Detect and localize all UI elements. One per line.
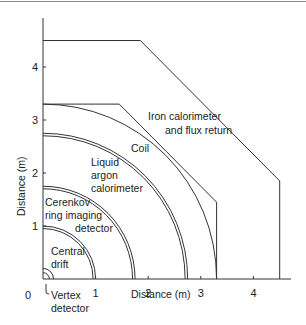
label-cerenkov-3: detector xyxy=(75,222,113,234)
y-tick-1: 1 xyxy=(32,220,38,232)
y-tick-3: 3 xyxy=(32,114,38,126)
label-argon-3: calorimeter xyxy=(91,182,143,194)
label-drift-1: Central xyxy=(51,245,85,257)
label-vertex-1: Vertex xyxy=(51,289,82,301)
label-iron-2: and flux return xyxy=(165,124,232,136)
x-tick-4: 4 xyxy=(250,287,256,299)
detector-diagram: 12341234 0 Distance (m) Distance (m) Iro… xyxy=(0,0,306,325)
label-cerenkov-1: Cerenkov xyxy=(45,196,91,208)
y-axis-label: Distance (m) xyxy=(15,156,27,216)
vertex-detector-inner-arc xyxy=(43,273,49,279)
x-tick-0: 0 xyxy=(25,289,31,301)
label-iron-1: Iron calorimeter xyxy=(148,110,221,122)
axes xyxy=(43,18,291,279)
x-tick-3: 3 xyxy=(198,287,204,299)
label-vertex-2: detector xyxy=(51,302,89,314)
label-drift-2: drift xyxy=(51,258,69,270)
label-coil-1: Coil xyxy=(131,142,149,154)
y-tick-2: 2 xyxy=(32,167,38,179)
x-tick-1: 1 xyxy=(93,287,99,299)
label-argon-2: argon xyxy=(91,169,118,181)
component-labels: Iron calorimeter and flux return Coil Li… xyxy=(45,110,232,314)
vertex-leader-line xyxy=(46,284,49,294)
label-cerenkov-2: ring imaging xyxy=(45,209,102,221)
y-tick-4: 4 xyxy=(32,61,38,73)
label-argon-1: Liquid xyxy=(91,156,119,168)
x-axis-label: Distance (m) xyxy=(131,288,191,300)
